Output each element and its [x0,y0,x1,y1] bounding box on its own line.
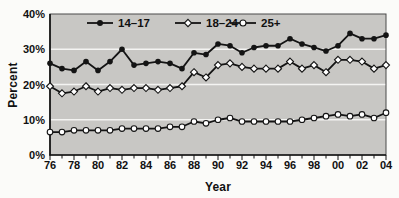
filled-circle-marker-icon [167,61,173,67]
open-circle-marker-icon [239,119,245,125]
y-tick-label: 30% [23,43,45,55]
y-tick-label: 0% [29,149,45,161]
filled-circle-marker-icon [131,62,137,68]
filled-circle-marker-icon [59,66,65,72]
x-tick-label: 94 [260,159,273,171]
filled-circle-marker-icon [227,43,233,49]
x-axis-title: Year [205,180,231,194]
open-circle-marker-icon [299,117,305,123]
x-tick-label: 98 [308,159,320,171]
filled-circle-marker-icon [119,46,125,52]
legend-label: 25+ [261,17,281,29]
open-circle-marker-icon [95,128,101,134]
open-circle-marker-icon [155,126,161,132]
y-tick-label: 10% [23,114,45,126]
filled-circle-marker-icon [263,43,269,49]
chart-canvas: 0%10%20%30%40%76788082848688909294969800… [0,0,399,198]
filled-circle-marker-icon [71,68,77,74]
open-circle-marker-icon [275,119,281,125]
y-axis-title: Percent [6,62,20,107]
x-tick-label: 84 [140,159,153,171]
filled-circle-marker-icon [287,36,293,42]
filled-circle-marker-icon [191,50,197,56]
line-chart-figure: 0%10%20%30%40%76788082848688909294969800… [0,0,399,198]
filled-circle-marker-icon [299,41,305,47]
open-circle-marker-icon [215,117,221,123]
filled-circle-marker-icon [251,45,257,51]
open-circle-marker-icon [83,128,89,134]
open-circle-marker-icon [47,129,53,135]
open-circle-marker-icon [347,113,353,119]
x-tick-label: 86 [164,159,176,171]
x-tick-label: 80 [92,159,104,171]
x-tick-label: 82 [116,159,128,171]
filled-circle-marker-icon [323,48,329,54]
x-tick-label: 04 [380,159,393,171]
open-circle-marker-icon [251,119,257,125]
open-circle-marker-icon [383,110,389,116]
open-circle-marker-icon [191,119,197,125]
filled-circle-marker-icon [97,20,103,26]
open-circle-marker-icon [287,119,293,125]
open-circle-marker-icon [59,129,65,135]
open-circle-marker-icon [335,112,341,118]
x-tick-label: 92 [236,159,248,171]
filled-circle-marker-icon [311,45,317,51]
open-circle-marker-icon [323,113,329,119]
open-circle-marker-icon [371,115,377,121]
x-tick-label: 96 [284,159,296,171]
open-circle-marker-icon [107,128,113,134]
x-tick-label: 88 [188,159,200,171]
filled-circle-marker-icon [83,59,89,65]
filled-circle-marker-icon [203,52,209,58]
open-circle-marker-icon [143,126,149,132]
filled-circle-marker-icon [95,68,101,74]
filled-circle-marker-icon [239,50,245,56]
filled-circle-marker-icon [215,41,221,47]
open-circle-marker-icon [240,20,246,26]
open-circle-marker-icon [131,126,137,132]
x-tick-label: 90 [212,159,224,171]
filled-circle-marker-icon [155,59,161,65]
open-circle-marker-icon [263,119,269,125]
filled-circle-marker-icon [47,61,53,67]
y-tick-label: 40% [23,8,45,20]
x-tick-label: 00 [332,159,344,171]
open-circle-marker-icon [227,115,233,121]
filled-circle-marker-icon [275,43,281,49]
filled-circle-marker-icon [383,32,389,38]
open-circle-marker-icon [71,128,77,134]
open-circle-marker-icon [167,124,173,130]
filled-circle-marker-icon [143,61,149,67]
open-circle-marker-icon [203,120,209,126]
filled-circle-marker-icon [347,31,353,37]
y-tick-label: 20% [23,79,45,91]
open-circle-marker-icon [179,124,185,130]
filled-circle-marker-icon [371,36,377,42]
x-tick-label: 78 [68,159,80,171]
x-tick-label: 76 [44,159,56,171]
x-tick-label: 02 [356,159,368,171]
open-circle-marker-icon [119,126,125,132]
open-circle-marker-icon [359,112,365,118]
filled-circle-marker-icon [179,66,185,72]
open-circle-marker-icon [311,115,317,121]
filled-circle-marker-icon [107,59,113,65]
filled-circle-marker-icon [359,36,365,42]
filled-circle-marker-icon [335,43,341,49]
legend-label: 14–17 [118,17,150,29]
